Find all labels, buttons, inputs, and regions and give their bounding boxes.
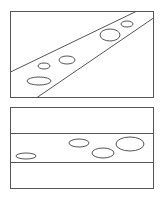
ellipse-shape <box>59 56 75 64</box>
band-edge-line <box>37 18 154 98</box>
ellipse-shape <box>92 148 114 158</box>
ellipse-shape <box>121 21 133 27</box>
bottom-panel-horizontal-band <box>11 108 154 189</box>
ellipse-shape <box>16 153 36 159</box>
ellipse-shape <box>27 77 51 85</box>
ellipse-shape <box>38 63 50 69</box>
top-panel-diagonal-band <box>11 12 154 98</box>
ellipse-shape <box>100 29 120 41</box>
ellipse-shape <box>69 139 89 147</box>
panel-frame <box>11 108 154 189</box>
diagram-canvas <box>0 0 164 204</box>
ellipse-shape <box>116 137 144 151</box>
